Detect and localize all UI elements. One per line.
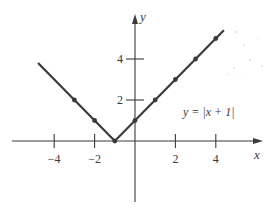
x-tick-label: −4 bbox=[48, 152, 61, 166]
data-point bbox=[92, 118, 97, 123]
data-point bbox=[72, 98, 77, 103]
x-tick-label: 2 bbox=[172, 152, 178, 166]
data-point bbox=[173, 77, 178, 82]
data-point bbox=[112, 139, 117, 144]
graph-canvas: −4−22424 x y y = |x + 1| bbox=[0, 0, 274, 218]
x-axis-arrow-icon bbox=[253, 138, 263, 144]
y-axis-label: y bbox=[138, 9, 146, 24]
y-tick-label: 4 bbox=[117, 52, 123, 66]
y-tick-label: 2 bbox=[117, 93, 123, 107]
x-tick-label: −2 bbox=[88, 152, 101, 166]
data-point bbox=[153, 98, 158, 103]
x-tick-label: 4 bbox=[213, 152, 219, 166]
scan-noise bbox=[227, 31, 262, 78]
graph-line bbox=[38, 30, 224, 141]
equation-label: y = |x + 1| bbox=[182, 105, 234, 119]
data-point bbox=[133, 118, 138, 123]
function-graph bbox=[38, 30, 224, 143]
y-axis-arrow-icon bbox=[132, 14, 138, 24]
data-point bbox=[213, 36, 218, 41]
data-point bbox=[193, 57, 198, 62]
x-axis-label: x bbox=[253, 147, 260, 162]
